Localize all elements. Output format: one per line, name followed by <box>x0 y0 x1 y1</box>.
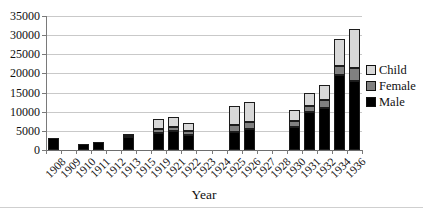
bar-segment-male <box>244 129 255 150</box>
y-axis-tick-label: 20000 <box>0 67 40 79</box>
gridline <box>46 73 362 74</box>
bar-segment-child <box>229 106 240 124</box>
bar-segment-female <box>319 100 330 108</box>
bar-segment-male <box>319 108 330 150</box>
y-axis-tick-label: 0 <box>0 144 40 156</box>
bar-segment-male <box>153 133 164 150</box>
bar-segment-child <box>334 39 345 66</box>
y-axis-tick-label: 10000 <box>0 106 40 118</box>
bar-segment-male <box>168 131 179 150</box>
y-axis-tick-label: 5000 <box>0 125 40 137</box>
x-axis-tick <box>347 150 348 154</box>
bar-segment-child <box>168 117 179 127</box>
bar-segment-child <box>244 102 255 122</box>
gridline <box>46 16 362 17</box>
x-axis-tick <box>227 150 228 154</box>
x-axis-tick <box>76 150 77 154</box>
bar-segment-child <box>304 93 315 106</box>
bar-segment-child <box>153 119 164 129</box>
x-axis-line <box>46 150 363 151</box>
bar-segment-female <box>153 129 164 133</box>
x-axis-tick <box>287 150 288 154</box>
x-axis-tick <box>181 150 182 154</box>
chart-frame-border <box>0 207 423 208</box>
bar-segment-male <box>123 137 134 150</box>
x-axis-tick <box>196 150 197 154</box>
x-axis-tick <box>272 150 273 154</box>
y-axis-tick-label: 25000 <box>0 48 40 60</box>
bar-segment-child <box>319 85 330 100</box>
bar-segment-male <box>93 142 104 150</box>
x-axis-tick <box>61 150 62 154</box>
legend-label-male: Male <box>379 96 405 109</box>
plot-area: 0500010000150002000025000300003500019081… <box>0 0 423 209</box>
legend-swatch-male <box>366 97 376 107</box>
legend-label-child: Child <box>379 64 407 77</box>
bar-segment-child <box>123 134 134 136</box>
legend-label-female: Female <box>379 80 416 93</box>
x-axis-tick <box>212 150 213 154</box>
y-axis-tick-label: 30000 <box>0 29 40 41</box>
x-axis-tick <box>151 150 152 154</box>
x-axis-title: Year <box>46 187 362 203</box>
bar-segment-male <box>349 81 360 150</box>
legend-item-male: Male <box>366 94 416 110</box>
x-axis-tick <box>302 150 303 154</box>
x-axis-tick <box>257 150 258 154</box>
y-axis-tick-label: 35000 <box>0 10 40 22</box>
bar-segment-male <box>229 132 240 150</box>
bar-segment-child <box>183 123 194 131</box>
legend-item-female: Female <box>366 78 416 94</box>
bar-segment-female <box>304 106 315 112</box>
x-axis-tick <box>362 150 363 154</box>
x-axis-tick <box>121 150 122 154</box>
x-axis-tick <box>242 150 243 154</box>
gridline <box>46 54 362 55</box>
x-axis-tick <box>317 150 318 154</box>
chart: 0500010000150002000025000300003500019081… <box>0 0 423 209</box>
bar-segment-female <box>168 127 179 131</box>
bar-segment-male <box>289 127 300 150</box>
y-axis-tick-label: 15000 <box>0 87 40 99</box>
bar-segment-male <box>48 138 59 150</box>
y-axis-line <box>46 16 47 151</box>
x-axis-tick <box>166 150 167 154</box>
legend-item-child: Child <box>366 62 416 78</box>
legend-swatch-female <box>366 81 376 91</box>
bar-segment-female <box>349 68 360 81</box>
bar-segment-female <box>244 122 255 130</box>
bar-segment-child <box>349 29 360 67</box>
bar-segment-female <box>334 66 345 76</box>
bar-segment-female <box>123 135 134 137</box>
x-axis-tick <box>136 150 137 154</box>
legend: ChildFemaleMale <box>366 62 416 110</box>
bar-segment-female <box>229 125 240 133</box>
bar-segment-male <box>183 135 194 150</box>
x-axis-tick <box>106 150 107 154</box>
x-axis-tick <box>332 150 333 154</box>
bar-segment-female <box>289 121 300 127</box>
legend-swatch-child <box>366 65 376 75</box>
bar-segment-male <box>304 112 315 150</box>
bar-segment-female <box>183 131 194 135</box>
x-axis-tick <box>91 150 92 154</box>
gridline <box>46 35 362 36</box>
bar-segment-child <box>289 110 300 121</box>
bar-segment-male <box>334 75 345 150</box>
x-axis-tick <box>46 150 47 154</box>
bar-segment-male <box>78 144 89 150</box>
